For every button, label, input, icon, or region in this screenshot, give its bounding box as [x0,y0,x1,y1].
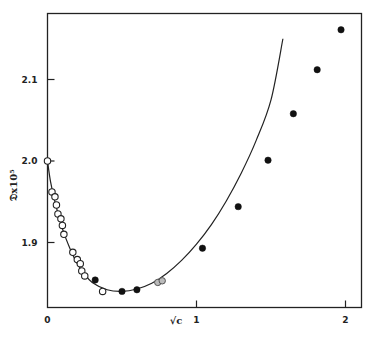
x-tick-label: 1 [193,315,199,325]
open-circle-point [59,222,65,228]
open-circle-point [44,158,50,164]
x-axis-label: √c [170,315,183,326]
open-circle-point [82,273,88,279]
open-circle-point [99,288,105,294]
open-circle-point [77,260,83,266]
tick-labels: 0121.92.02.1 [22,75,349,325]
gray-circle-point [159,278,165,284]
open-circle-point [53,202,59,208]
plot-frame [48,14,362,308]
x-tick-label: 0 [44,315,50,325]
filled-circle-point [235,203,241,209]
filled-circle-point [265,157,271,163]
chart: 0121.92.02.1 √c 𝔇x10⁵ [0,0,369,340]
filled-circle-point [314,67,320,73]
data-points [44,27,344,295]
theoretical-curve [48,39,283,292]
filled-circle-point [338,27,344,33]
y-tick-label: 1.9 [22,238,38,248]
open-circle-point [61,231,67,237]
filled-circle-point [92,277,98,283]
y-tick-label: 2.1 [22,75,38,85]
open-circle-point [70,249,76,255]
open-circle-point [58,216,64,222]
filled-circle-point [119,288,125,294]
filled-circle-point [290,111,296,117]
filled-circle-point [134,287,140,293]
axis-ticks [48,80,346,308]
open-circle-point [52,194,58,200]
y-axis-label: 𝔇x10⁵ [8,169,19,200]
filled-circle-point [199,245,205,251]
y-tick-label: 2.0 [22,156,38,166]
x-tick-label: 2 [342,315,348,325]
